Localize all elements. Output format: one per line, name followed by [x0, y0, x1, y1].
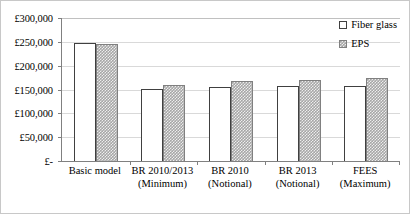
bar-eps[interactable]: [163, 85, 185, 161]
bar-chart: £-£50,000£100,000£150,000£200,000£250,00…: [0, 0, 410, 214]
legend-swatch-icon: [339, 21, 347, 29]
x-axis-category-line1: BR 2010: [196, 164, 264, 177]
x-axis-tick-mark: [399, 161, 400, 165]
bar-group: [62, 18, 130, 161]
x-axis-category-label: FEES(Maximum): [331, 164, 399, 190]
y-axis-tick-label: £150,000: [14, 84, 53, 95]
x-axis-category-line2: (Maximum): [331, 177, 399, 190]
legend-entry[interactable]: EPS: [339, 38, 397, 49]
x-axis-category-line2: (Minimum): [129, 177, 197, 190]
bar-eps[interactable]: [299, 80, 321, 162]
y-axis-tick-label: £-: [44, 156, 53, 167]
bar-group: [130, 18, 198, 161]
x-axis-category-line1: BR 2013: [264, 164, 332, 177]
bar-fiber-glass[interactable]: [74, 43, 96, 161]
y-axis-tick-label: £50,000: [20, 132, 53, 143]
legend-swatch-icon: [339, 40, 347, 48]
x-axis-category-line2: (Notional): [196, 177, 264, 190]
x-axis-category-label: Basic model: [61, 164, 129, 190]
bar-fiber-glass[interactable]: [344, 86, 366, 161]
legend-label: Fiber glass: [351, 19, 397, 30]
bar-fiber-glass[interactable]: [209, 87, 231, 161]
y-axis-tick-label: £300,000: [14, 13, 53, 24]
x-axis-category-line2: (Notional): [264, 177, 332, 190]
y-axis-tick-label: £250,000: [14, 36, 53, 47]
y-axis-tick-label: £200,000: [14, 60, 53, 71]
x-axis-category-line1: Basic model: [61, 164, 129, 177]
x-axis: Basic modelBR 2010/2013(Minimum)BR 2010(…: [61, 164, 399, 190]
y-axis-tick-mark: [58, 161, 62, 162]
bar-eps[interactable]: [231, 81, 253, 161]
bar-group: [265, 18, 333, 161]
x-axis-category-line1: BR 2010/2013: [129, 164, 197, 177]
bar-eps[interactable]: [366, 78, 388, 161]
y-axis-tick-label: £100,000: [14, 108, 53, 119]
bar-group: [197, 18, 265, 161]
x-axis-category-label: BR 2013(Notional): [264, 164, 332, 190]
x-axis-category-label: BR 2010(Notional): [196, 164, 264, 190]
x-axis-category-line1: FEES: [331, 164, 399, 177]
legend-label: EPS: [351, 38, 369, 49]
bar-eps[interactable]: [96, 44, 118, 161]
bar-fiber-glass[interactable]: [277, 86, 299, 161]
legend-entry[interactable]: Fiber glass: [339, 19, 397, 30]
bar-fiber-glass[interactable]: [141, 89, 163, 161]
chart-legend: Fiber glassEPS: [339, 19, 397, 49]
y-axis: £-£50,000£100,000£150,000£200,000£250,00…: [1, 1, 59, 214]
x-axis-category-label: BR 2010/2013(Minimum): [129, 164, 197, 190]
